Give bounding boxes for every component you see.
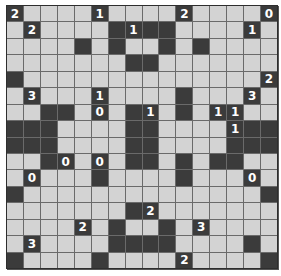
empty-cell[interactable] (75, 187, 91, 202)
empty-cell[interactable] (109, 55, 125, 70)
empty-cell[interactable] (159, 187, 175, 202)
empty-cell[interactable] (210, 236, 226, 251)
empty-cell[interactable] (261, 88, 277, 103)
empty-cell[interactable] (41, 253, 57, 268)
empty-cell[interactable] (7, 154, 23, 169)
empty-cell[interactable] (193, 187, 209, 202)
empty-cell[interactable] (244, 220, 260, 235)
empty-cell[interactable] (244, 187, 260, 202)
empty-cell[interactable] (92, 203, 108, 218)
empty-cell[interactable] (159, 253, 175, 268)
empty-cell[interactable] (261, 105, 277, 120)
empty-cell[interactable] (176, 187, 192, 202)
empty-cell[interactable] (261, 39, 277, 54)
empty-cell[interactable] (58, 22, 74, 37)
empty-cell[interactable] (227, 203, 243, 218)
empty-cell[interactable] (244, 6, 260, 21)
empty-cell[interactable] (75, 154, 91, 169)
empty-cell[interactable] (7, 39, 23, 54)
empty-cell[interactable] (58, 121, 74, 136)
empty-cell[interactable] (75, 236, 91, 251)
empty-cell[interactable] (193, 138, 209, 153)
empty-cell[interactable] (24, 105, 40, 120)
empty-cell[interactable] (261, 220, 277, 235)
empty-cell[interactable] (227, 220, 243, 235)
empty-cell[interactable] (75, 55, 91, 70)
empty-cell[interactable] (75, 88, 91, 103)
empty-cell[interactable] (58, 203, 74, 218)
empty-cell[interactable] (41, 203, 57, 218)
empty-cell[interactable] (41, 39, 57, 54)
empty-cell[interactable] (109, 6, 125, 21)
empty-cell[interactable] (176, 236, 192, 251)
empty-cell[interactable] (261, 170, 277, 185)
empty-cell[interactable] (227, 22, 243, 37)
empty-cell[interactable] (159, 88, 175, 103)
empty-cell[interactable] (7, 220, 23, 235)
empty-cell[interactable] (24, 39, 40, 54)
empty-cell[interactable] (143, 39, 159, 54)
empty-cell[interactable] (143, 220, 159, 235)
empty-cell[interactable] (58, 39, 74, 54)
empty-cell[interactable] (58, 138, 74, 153)
empty-cell[interactable] (24, 203, 40, 218)
empty-cell[interactable] (176, 220, 192, 235)
empty-cell[interactable] (126, 39, 142, 54)
empty-cell[interactable] (58, 6, 74, 21)
empty-cell[interactable] (126, 88, 142, 103)
empty-cell[interactable] (143, 170, 159, 185)
empty-cell[interactable] (58, 253, 74, 268)
empty-cell[interactable] (244, 55, 260, 70)
empty-cell[interactable] (176, 121, 192, 136)
empty-cell[interactable] (261, 22, 277, 37)
empty-cell[interactable] (193, 72, 209, 87)
empty-cell[interactable] (227, 88, 243, 103)
empty-cell[interactable] (41, 55, 57, 70)
empty-cell[interactable] (143, 72, 159, 87)
empty-cell[interactable] (159, 138, 175, 153)
empty-cell[interactable] (24, 154, 40, 169)
empty-cell[interactable] (92, 22, 108, 37)
empty-cell[interactable] (244, 253, 260, 268)
empty-cell[interactable] (176, 55, 192, 70)
empty-cell[interactable] (7, 236, 23, 251)
empty-cell[interactable] (210, 138, 226, 153)
empty-cell[interactable] (159, 6, 175, 21)
empty-cell[interactable] (126, 72, 142, 87)
empty-cell[interactable] (41, 6, 57, 21)
empty-cell[interactable] (193, 154, 209, 169)
empty-cell[interactable] (210, 253, 226, 268)
empty-cell[interactable] (58, 170, 74, 185)
empty-cell[interactable] (244, 39, 260, 54)
empty-cell[interactable] (7, 22, 23, 37)
empty-cell[interactable] (109, 72, 125, 87)
empty-cell[interactable] (261, 55, 277, 70)
empty-cell[interactable] (227, 6, 243, 21)
empty-cell[interactable] (176, 22, 192, 37)
empty-cell[interactable] (210, 220, 226, 235)
empty-cell[interactable] (193, 55, 209, 70)
empty-cell[interactable] (176, 203, 192, 218)
empty-cell[interactable] (210, 6, 226, 21)
empty-cell[interactable] (41, 220, 57, 235)
empty-cell[interactable] (193, 105, 209, 120)
empty-cell[interactable] (75, 138, 91, 153)
empty-cell[interactable] (227, 187, 243, 202)
empty-cell[interactable] (193, 88, 209, 103)
empty-cell[interactable] (58, 88, 74, 103)
empty-cell[interactable] (109, 105, 125, 120)
empty-cell[interactable] (143, 253, 159, 268)
empty-cell[interactable] (92, 72, 108, 87)
empty-cell[interactable] (227, 236, 243, 251)
empty-cell[interactable] (159, 72, 175, 87)
empty-cell[interactable] (75, 105, 91, 120)
empty-cell[interactable] (7, 55, 23, 70)
empty-cell[interactable] (143, 187, 159, 202)
empty-cell[interactable] (193, 121, 209, 136)
empty-cell[interactable] (244, 203, 260, 218)
empty-cell[interactable] (7, 88, 23, 103)
empty-cell[interactable] (58, 236, 74, 251)
empty-cell[interactable] (41, 72, 57, 87)
empty-cell[interactable] (159, 105, 175, 120)
empty-cell[interactable] (58, 55, 74, 70)
